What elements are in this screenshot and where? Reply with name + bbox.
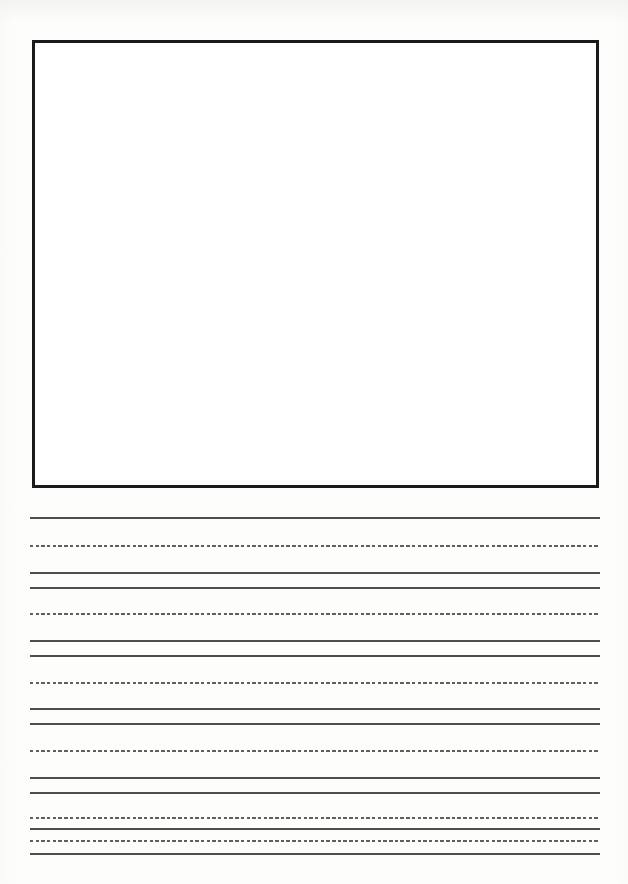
writing-rule-solid <box>30 655 600 657</box>
writing-rule-solid <box>30 792 600 794</box>
writing-rule-solid <box>30 723 600 725</box>
writing-rule-dashed <box>30 682 600 684</box>
writing-rule-solid <box>30 708 600 710</box>
writing-lines-area[interactable] <box>0 0 628 884</box>
writing-rule-solid <box>30 828 600 830</box>
writing-rule-solid <box>30 587 600 589</box>
writing-rule-solid <box>30 517 600 519</box>
writing-rule-dashed <box>30 750 600 752</box>
worksheet-page <box>0 0 628 884</box>
writing-rule-solid <box>30 572 600 574</box>
writing-rule-dashed <box>30 613 600 615</box>
writing-rule-solid <box>30 640 600 642</box>
writing-rule-dashed <box>30 840 600 842</box>
writing-rule-dashed <box>30 817 600 819</box>
writing-rule-dashed <box>30 545 600 547</box>
writing-rule-solid <box>30 777 600 779</box>
writing-rule-solid <box>30 853 600 855</box>
